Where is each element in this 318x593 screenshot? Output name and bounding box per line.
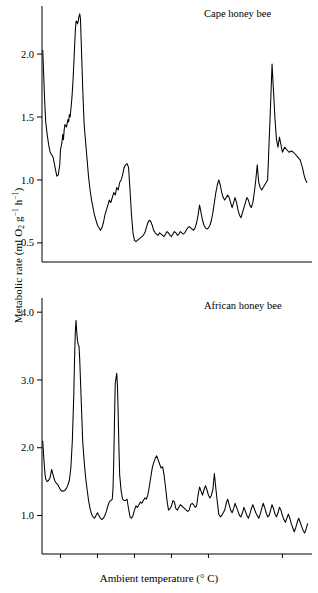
data-trace [43, 14, 307, 242]
y-tick-label: 3.0 [21, 375, 34, 386]
metabolic-rate-figure: Metabolic rate (ml O2 g−1 h−1) Cape hone… [0, 0, 318, 593]
y-tick-label: 4.0 [21, 307, 34, 318]
chart-african-honey-bee: 1.02.03.04.020151050−10 [0, 288, 318, 558]
y-tick-label: 1.0 [21, 175, 34, 186]
x-axis-label-pre: Ambient temperature ( [100, 572, 200, 584]
y-tick-label: 2.0 [21, 49, 34, 60]
y-tick-label: 1.0 [21, 510, 34, 521]
y-tick-label: 2.0 [21, 442, 34, 453]
panel-cape-honey-bee: Cape honey bee 0.51.01.52.0 [0, 0, 318, 280]
panel-african-honey-bee: African honey bee 1.02.03.04.020151050−1… [0, 288, 318, 558]
y-tick-label: 1.5 [21, 112, 34, 123]
x-axis-label: Ambient temperature (° C) [0, 572, 318, 584]
y-tick-label: 0.5 [21, 237, 34, 248]
data-trace [43, 320, 308, 533]
x-axis-label-post: C) [204, 572, 218, 584]
chart-cape-honey-bee: 0.51.01.52.0 [0, 0, 318, 280]
